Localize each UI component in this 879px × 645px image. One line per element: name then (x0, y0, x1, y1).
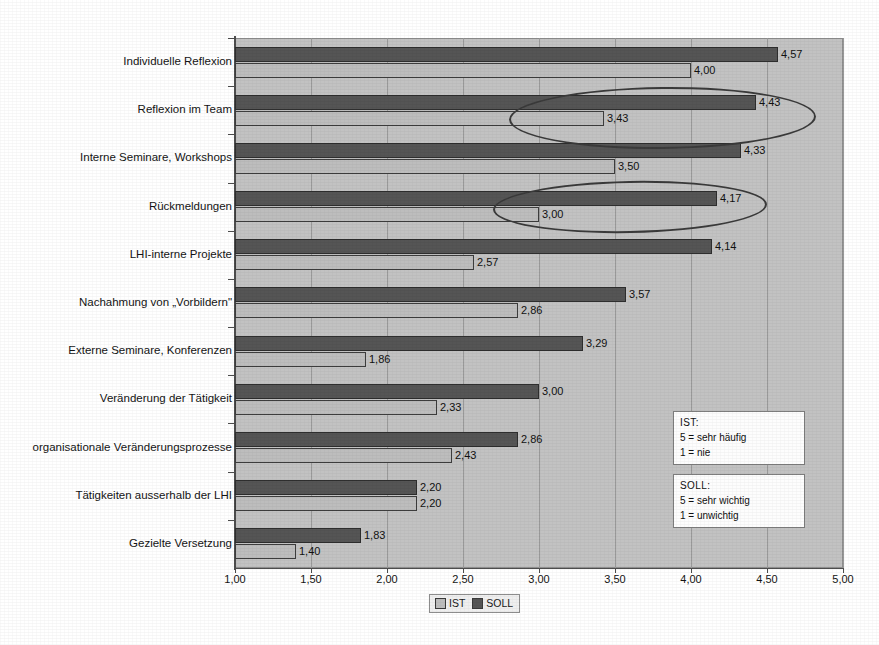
legend-entry: SOLL (472, 597, 513, 609)
legend-swatch-icon (472, 598, 483, 609)
category-label: Veränderung der Tätigkeit (100, 392, 232, 405)
bar-chart: Individuelle ReflexionReflexion im TeamI… (0, 0, 879, 645)
bar-value-label-ist: 1,40 (299, 546, 320, 557)
bar-ist (235, 63, 691, 78)
bar-value-label-soll: 2,86 (521, 434, 542, 445)
bar-soll (235, 47, 778, 62)
bar-value-label-ist: 3,43 (607, 113, 628, 124)
legend-label: SOLL (486, 597, 513, 609)
category-label: Interne Seminare, Workshops (80, 151, 232, 164)
note-ist-title: IST: (680, 415, 798, 430)
x-axis-tick-label: 1,00 (224, 573, 245, 585)
bar-value-label-soll: 4,14 (715, 241, 736, 252)
bar-value-label-soll: 4,57 (781, 49, 802, 60)
bar-value-label-soll: 2,20 (420, 482, 441, 493)
x-axis-tick-label: 4,50 (756, 573, 777, 585)
y-axis-tick (228, 231, 234, 232)
x-axis-tick-label: 5,00 (832, 573, 853, 585)
y-axis-tick (228, 86, 234, 87)
bar-ist (235, 207, 539, 222)
bar-ist (235, 352, 366, 367)
note-soll-title: SOLL: (680, 478, 798, 493)
y-axis-tick (228, 38, 234, 39)
bar-value-label-ist: 2,33 (440, 402, 461, 413)
bar-value-label-ist: 1,86 (369, 354, 390, 365)
bar-ist (235, 448, 452, 463)
bar-value-label-soll: 3,57 (629, 289, 650, 300)
bar-soll (235, 191, 717, 206)
y-axis-tick (228, 472, 234, 473)
category-label: Individuelle Reflexion (123, 55, 232, 68)
bar-value-label-ist: 2,43 (455, 450, 476, 461)
x-axis-tick-label: 2,50 (452, 573, 473, 585)
y-axis-tick (228, 327, 234, 328)
bar-soll (235, 336, 583, 351)
bar-soll (235, 384, 539, 399)
bar-soll (235, 528, 361, 543)
x-axis-tick-label: 1,50 (300, 573, 321, 585)
x-axis-tick-label: 4,00 (680, 573, 701, 585)
bar-ist (235, 303, 518, 318)
note-soll-scale-high: 5 = sehr wichtig (680, 493, 798, 508)
y-axis-tick (228, 520, 234, 521)
y-axis-tick (228, 423, 234, 424)
bar-value-label-ist: 2,20 (420, 498, 441, 509)
bar-value-label-ist: 2,57 (477, 257, 498, 268)
bar-ist (235, 496, 417, 511)
bar-soll (235, 95, 756, 110)
category-label: organisationale Veränderungsprozesse (33, 441, 232, 454)
bar-value-label-ist: 3,50 (618, 161, 639, 172)
note-box-soll: SOLL: 5 = sehr wichtig 1 = unwichtig (673, 474, 805, 528)
category-label: Rückmeldungen (149, 200, 232, 213)
bar-soll (235, 432, 518, 447)
bar-value-label-soll: 1,83 (364, 530, 385, 541)
category-label: Reflexion im Team (138, 103, 232, 116)
bar-value-label-soll: 4,33 (744, 145, 765, 156)
y-axis-tick (228, 134, 234, 135)
category-label: Tätigkeiten ausserhalb der LHI (75, 489, 232, 502)
category-label: LHI-interne Projekte (130, 248, 232, 261)
x-axis-tick-label: 3,00 (528, 573, 549, 585)
bar-value-label-soll: 3,00 (542, 386, 563, 397)
y-axis-tick (228, 375, 234, 376)
bar-soll (235, 143, 741, 158)
category-label: Externe Seminare, Konferenzen (68, 344, 232, 357)
bar-value-label-soll: 4,17 (720, 193, 741, 204)
bar-value-label-ist: 3,00 (542, 209, 563, 220)
chart-legend: ISTSOLL (429, 594, 520, 613)
bar-value-label-ist: 2,86 (521, 305, 542, 316)
note-ist-scale-high: 5 = sehr häufig (680, 430, 798, 445)
x-axis-tick-label: 3,50 (604, 573, 625, 585)
bar-value-label-soll: 4,43 (759, 97, 780, 108)
note-soll-scale-low: 1 = unwichtig (680, 508, 798, 523)
category-label: Gezielte Versetzung (129, 537, 232, 550)
note-box-ist: IST: 5 = sehr häufig 1 = nie (673, 411, 805, 465)
note-ist-scale-low: 1 = nie (680, 445, 798, 460)
bar-soll (235, 239, 712, 254)
bar-soll (235, 480, 417, 495)
bar-value-label-soll: 3,29 (586, 338, 607, 349)
legend-swatch-icon (435, 598, 446, 609)
y-axis-tick (228, 279, 234, 280)
bar-ist (235, 400, 437, 415)
legend-entry: IST (435, 597, 465, 609)
bar-ist (235, 544, 296, 559)
bar-ist (235, 111, 604, 126)
legend-label: IST (449, 597, 465, 609)
bar-soll (235, 287, 626, 302)
y-axis-tick (228, 183, 234, 184)
x-axis-tick-label: 2,00 (376, 573, 397, 585)
category-label: Nachahmung von „Vorbildern" (79, 296, 232, 309)
bar-value-label-ist: 4,00 (694, 65, 715, 76)
bar-ist (235, 159, 615, 174)
bar-ist (235, 255, 474, 270)
gridline (843, 38, 844, 568)
